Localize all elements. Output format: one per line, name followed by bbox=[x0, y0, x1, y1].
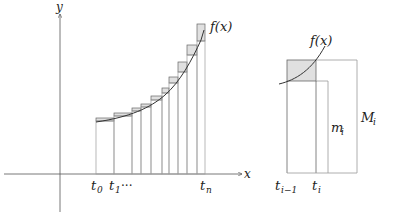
upper-lower-difference-band bbox=[187, 45, 197, 55]
curve-label-detail: f(x) bbox=[309, 33, 332, 48]
lower-sum-rectangle bbox=[151, 100, 162, 174]
M-i-label: M i bbox=[360, 110, 376, 127]
riemann-sum-figure: y x f(x) t 0 t 1 ··· t n f(x) m i bbox=[0, 0, 408, 221]
svg-text:i: i bbox=[373, 117, 376, 127]
tick-label-tn: t n bbox=[200, 178, 212, 195]
svg-text:i−1: i−1 bbox=[281, 185, 297, 195]
svg-text:1: 1 bbox=[115, 185, 121, 195]
curve-label: f(x) bbox=[209, 19, 232, 34]
function-curve bbox=[96, 30, 204, 122]
svg-text:n: n bbox=[206, 185, 212, 195]
svg-text:0: 0 bbox=[97, 185, 103, 195]
riemann-rectangles bbox=[96, 24, 205, 174]
m-i-label: m i bbox=[331, 120, 344, 137]
upper-lower-difference-band bbox=[151, 96, 162, 100]
lower-sum-rectangle bbox=[169, 83, 178, 174]
left-diagram: y x f(x) t 0 t 1 ··· t n bbox=[4, 0, 251, 212]
lower-sum-rectangle bbox=[187, 55, 197, 174]
lower-sum-rectangle bbox=[162, 93, 169, 174]
right-diagram: f(x) m i M i t i−1 t i bbox=[275, 33, 376, 195]
svg-text:···: ··· bbox=[121, 179, 132, 193]
lower-sum-rectangle bbox=[114, 116, 132, 174]
lower-sum-rectangle bbox=[141, 107, 151, 174]
upper-lower-difference-band bbox=[178, 62, 187, 72]
t-i-label: t i bbox=[312, 178, 321, 195]
t-i-minus-1-label: t i−1 bbox=[275, 178, 297, 195]
y-axis-label: y bbox=[55, 0, 63, 14]
lower-sum-rectangle bbox=[197, 41, 205, 174]
tick-label-t1: t 1 ··· bbox=[109, 178, 132, 195]
svg-text:i: i bbox=[318, 185, 321, 195]
lower-sum-rectangle bbox=[132, 111, 141, 174]
difference-region bbox=[287, 60, 316, 81]
lower-sum-rectangle bbox=[178, 72, 187, 174]
tick-label-t0: t 0 bbox=[91, 178, 103, 195]
lower-sum-rectangle bbox=[96, 121, 114, 174]
x-axis-label: x bbox=[244, 167, 251, 181]
svg-text:i: i bbox=[341, 127, 344, 137]
